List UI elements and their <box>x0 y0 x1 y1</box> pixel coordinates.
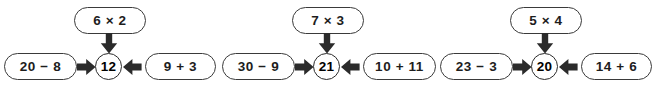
number-bond-group: 7 × 3 30 − 9 21 10 + 11 <box>218 0 436 91</box>
right-expression-pill[interactable]: 9 + 3 <box>145 53 216 80</box>
arrow-left-icon <box>123 59 142 75</box>
arrow-down-icon <box>100 33 118 54</box>
result-circle[interactable]: 20 <box>531 53 558 80</box>
result-circle[interactable]: 12 <box>95 53 122 80</box>
top-expression-pill[interactable]: 6 × 2 <box>74 7 146 34</box>
right-expression-pill[interactable]: 14 + 6 <box>581 53 652 80</box>
worksheet-canvas: 6 × 2 20 − 8 12 9 + 3 7 × 3 3 <box>0 0 654 91</box>
arrow-down-icon <box>536 33 554 54</box>
top-expression-pill[interactable]: 5 × 4 <box>510 7 582 34</box>
arrow-left-icon <box>559 59 578 75</box>
number-bond-group: 6 × 2 20 − 8 12 9 + 3 <box>0 0 218 91</box>
result-circle[interactable]: 21 <box>313 53 340 80</box>
right-expression-pill[interactable]: 10 + 11 <box>363 53 436 80</box>
top-expression-pill[interactable]: 7 × 3 <box>292 7 364 34</box>
left-expression-pill[interactable]: 23 − 3 <box>440 53 513 80</box>
number-bond-group: 5 × 4 23 − 3 20 14 + 6 <box>436 0 654 91</box>
arrow-right-icon <box>513 59 532 75</box>
arrow-right-icon <box>295 59 314 75</box>
arrow-down-icon <box>318 33 336 54</box>
arrow-left-icon <box>341 59 360 75</box>
arrow-right-icon <box>77 59 96 75</box>
left-expression-pill[interactable]: 20 − 8 <box>4 53 77 80</box>
left-expression-pill[interactable]: 30 − 9 <box>222 53 295 80</box>
